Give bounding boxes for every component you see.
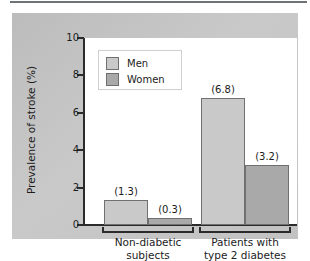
y-tick-label-10: 10 <box>35 33 79 43</box>
bar-group2-men <box>201 98 245 225</box>
group2-label-line2: type 2 diabetes <box>189 249 301 261</box>
bar-group1-women <box>148 218 192 225</box>
bar-value-group2-women: (3.2) <box>245 152 289 162</box>
group1-label: Non-diabetic subjects <box>92 236 204 261</box>
legend-label-men: Men <box>127 58 148 69</box>
bar-value-group1-women: (0.3) <box>148 205 192 215</box>
y-tick-label-0: 0 <box>35 220 79 230</box>
group2-bracket <box>199 227 291 233</box>
top-divider-rule <box>10 1 307 3</box>
men-swatch-icon <box>106 57 119 70</box>
y-tick-label-4: 4 <box>35 145 79 155</box>
bar-value-group2-men: (6.8) <box>201 85 245 95</box>
y-tick-label-2: 2 <box>35 183 79 193</box>
y-tick-label-6: 6 <box>35 108 79 118</box>
chart-panel: 10 8 6 4 2 0 Prevalence of stroke (%) (1… <box>12 13 298 239</box>
group1-label-line1: Non-diabetic <box>92 236 204 249</box>
bar-value-group1-men: (1.3) <box>104 187 148 197</box>
group2-label-line1: Patients with <box>189 236 301 249</box>
bar-group2-women <box>245 165 289 225</box>
group1-label-line2: subjects <box>92 249 204 261</box>
chart-legend: Men Women <box>98 50 182 90</box>
group2-label: Patients with type 2 diabetes <box>189 236 301 261</box>
y-tick-label-8: 8 <box>35 70 79 80</box>
y-axis-title: Prevalence of stroke (%) <box>25 50 37 210</box>
bar-group1-men <box>104 200 148 225</box>
women-swatch-icon <box>106 73 119 86</box>
group1-bracket <box>102 227 194 233</box>
y-axis-line <box>83 38 85 226</box>
legend-label-women: Women <box>127 74 165 85</box>
